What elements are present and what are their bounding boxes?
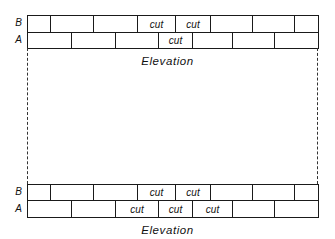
brick-cut: cut [137,184,176,201]
row-label-b-bottom: B [10,186,22,197]
brick [27,200,72,218]
brick-cut: cut [158,200,193,218]
right-dashed-edge [317,48,318,184]
brick [93,15,138,33]
brick [274,200,319,218]
brick [50,15,94,33]
brick [192,32,233,49]
brick-cut: cut [137,15,176,33]
brick [27,32,72,49]
brick [115,32,159,49]
brick [210,184,253,201]
brick-cut: cut [192,200,233,218]
brick [232,200,275,218]
brick [274,32,319,49]
brick [232,32,275,49]
brick [294,184,319,201]
brick-cut: cut [175,15,211,33]
brick [50,184,94,201]
brick [71,200,116,218]
brick [27,184,51,201]
brick [252,15,295,33]
brick-cut: cut [158,32,193,49]
row-label-a-bottom: A [10,203,22,214]
brick-cut: cut [115,200,159,218]
bottom-elevation-caption: Elevation [0,224,335,236]
brick [210,15,253,33]
brick [93,184,138,201]
row-label-b-top: B [10,17,22,28]
brick [252,184,295,201]
brick [71,32,116,49]
left-dashed-edge [27,48,28,184]
brick [27,15,51,33]
row-label-a-top: A [10,34,22,45]
top-elevation-caption: Elevation [0,55,335,67]
brick-cut: cut [175,184,211,201]
brick [294,15,319,33]
